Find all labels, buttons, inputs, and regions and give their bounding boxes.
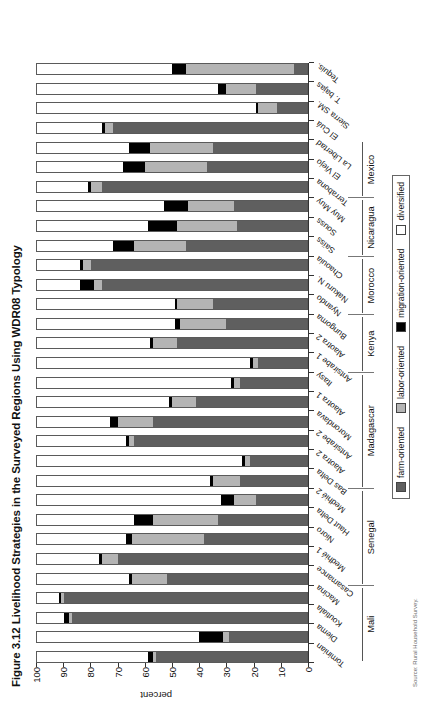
- group-label: Madagascar: [366, 405, 376, 456]
- group-label: Kenya: [366, 330, 376, 356]
- bar-tequis: [36, 63, 308, 75]
- segment-diversified: [37, 319, 175, 329]
- y-tick-label: 30: [221, 667, 232, 697]
- segment-diversified: [37, 162, 123, 172]
- bar-nyando: [36, 298, 308, 310]
- bar-series-container: [36, 63, 308, 663]
- bar-nakuru-n: [36, 279, 308, 291]
- group-bracket: Madagascar: [362, 375, 363, 487]
- segment-diversified: [37, 280, 80, 290]
- y-tick-label: 80: [85, 667, 96, 697]
- segment-diversified: [37, 417, 110, 427]
- figure-title: Figure 3.12 Livelihood Strategies in the…: [10, 245, 22, 687]
- group-bracket: Morocco: [362, 259, 363, 313]
- segment-labor: [118, 417, 153, 427]
- segment-labor: [186, 64, 294, 74]
- segment-diversified: [37, 241, 113, 251]
- segment-diversified: [37, 201, 164, 211]
- bar-bas-delta: [36, 475, 308, 487]
- segment-migration: [199, 632, 223, 642]
- bar-antsirabe-2: [36, 435, 308, 447]
- segment-farm: [153, 417, 307, 427]
- bar-terrabona: [36, 181, 308, 193]
- segment-diversified: [37, 378, 231, 388]
- segment-diversified: [37, 574, 129, 584]
- segment-migration: [113, 241, 135, 251]
- segment-farm: [218, 515, 307, 525]
- segment-labor: [153, 515, 218, 525]
- segment-diversified: [37, 397, 169, 407]
- group-bracket: Senegal: [362, 491, 363, 584]
- segment-diversified: [37, 84, 218, 94]
- segment-farm: [118, 554, 307, 564]
- legend-item-diversified: diversified: [396, 182, 406, 235]
- bar-nioro: [36, 533, 308, 545]
- segment-diversified: [37, 456, 242, 466]
- segment-diversified: [37, 64, 172, 74]
- segment-diversified: [37, 103, 256, 113]
- bar-alaotra-2: [36, 455, 308, 467]
- group-separator: [348, 256, 374, 257]
- segment-labor: [188, 201, 234, 211]
- bar-chaouia: [36, 259, 308, 271]
- segment-diversified: [37, 652, 148, 662]
- legend-item-labor: labor-oriented: [396, 346, 406, 413]
- bar-la-libertad: [36, 142, 308, 154]
- group-label: Mexico: [366, 155, 376, 184]
- group-label: Morocco: [366, 268, 376, 304]
- bar-medhi-2: [36, 494, 308, 506]
- legend-swatch-migration: [396, 322, 406, 332]
- segment-farm: [102, 182, 307, 192]
- segment-farm: [91, 260, 307, 270]
- group-bracket: Mexico: [362, 142, 363, 196]
- segment-farm: [156, 652, 307, 662]
- segment-diversified: [37, 613, 64, 623]
- segment-labor: [180, 319, 226, 329]
- segment-migration: [148, 221, 178, 231]
- segment-labor: [91, 182, 102, 192]
- segment-diversified: [37, 534, 126, 544]
- segment-farm: [134, 436, 307, 446]
- legend-label: migration-oriented: [396, 249, 406, 318]
- segment-migration: [172, 64, 186, 74]
- segment-diversified: [37, 123, 102, 133]
- segment-diversified: [37, 299, 175, 309]
- bar-bungoma: [36, 318, 308, 330]
- bar-macina: [36, 592, 308, 604]
- segment-migration: [123, 162, 145, 172]
- plot-area: [36, 63, 308, 663]
- bar-t-bajas: [36, 83, 308, 95]
- segment-labor: [177, 299, 212, 309]
- group-label: Nicaragua: [366, 206, 376, 248]
- y-tick-label: 40: [194, 667, 205, 697]
- segment-diversified: [37, 632, 199, 642]
- legend-label: labor-oriented: [396, 346, 406, 399]
- group-separator: [348, 488, 374, 489]
- group-separator: [348, 314, 374, 315]
- segment-labor: [94, 280, 102, 290]
- bar-alaotra-1: [36, 396, 308, 408]
- segment-diversified: [37, 593, 59, 603]
- bar-alaotra-2: [36, 338, 308, 350]
- x-tick: [309, 662, 314, 663]
- segment-diversified: [37, 182, 88, 192]
- segment-migration: [221, 495, 235, 505]
- segment-farm: [72, 613, 307, 623]
- segment-migration: [164, 201, 188, 211]
- group-bracket: Kenya: [362, 317, 363, 371]
- bar-itasy: [36, 377, 308, 389]
- segment-labor: [172, 397, 196, 407]
- segment-farm: [177, 339, 307, 349]
- group-bracket: Nicaragua: [362, 201, 363, 255]
- segment-migration: [134, 515, 153, 525]
- legend-item-farm: farm-oriented: [396, 427, 406, 492]
- y-tick-label: 100: [31, 667, 42, 697]
- segment-labor: [102, 554, 118, 564]
- y-tick-label: 20: [248, 667, 259, 697]
- segment-diversified: [37, 221, 148, 231]
- segment-farm: [102, 280, 307, 290]
- group-label: Mali: [366, 616, 376, 633]
- legend-label: diversified: [396, 182, 406, 221]
- segment-diversified: [37, 436, 126, 446]
